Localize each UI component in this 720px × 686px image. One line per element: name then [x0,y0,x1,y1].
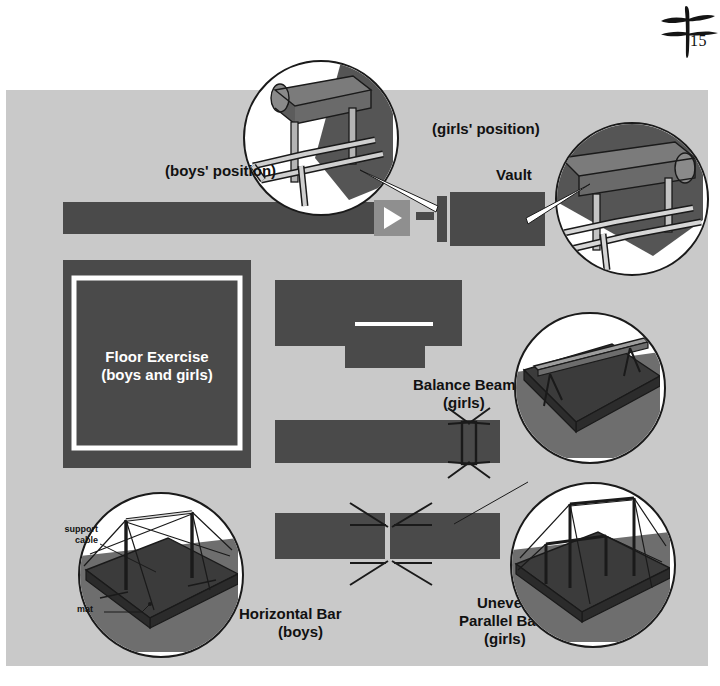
boys-position-vault-inset [243,60,399,216]
label-floor-exercise: Floor Exercise [63,348,251,366]
page-number: 15 [690,32,707,50]
balance-beam-mat-bottom [345,308,425,368]
label-uneven-bars-sub: (girls) [484,630,526,648]
gymnastics-apparatus-diagram-page: 15 [0,0,720,686]
balance-beam-line [355,322,433,326]
balance-beam-mat-top [345,280,425,308]
vault-connector [416,212,434,220]
label-floor-exercise-sub: (boys and girls) [63,366,251,384]
label-vault: Vault [496,166,532,184]
label-mat: mat [77,604,93,615]
girls-position-vault-inset [555,122,709,276]
horizontal-bar-inset [78,492,244,658]
label-horizontal-bar: Horizontal Bar [239,605,342,623]
label-boys-position: (boys' position) [165,162,276,180]
uneven-bars-landing-mat-left [275,513,385,559]
brush-stroke-ornament-icon [658,4,720,60]
label-horizontal-bar-sub: (boys) [278,623,323,641]
uneven-bars-landing-mat-right [390,513,500,559]
horizontal-bar-landing-mat [275,420,500,463]
vault-table [437,196,447,242]
label-girls-position: (girls' position) [432,120,540,138]
page-ornament: 15 [658,4,720,60]
vault-springboard [374,200,410,236]
vault-landing-mat [450,192,545,246]
balance-beam-inset [514,312,666,464]
uneven-parallel-bars-inset [510,482,676,648]
label-support-cable: support cable [40,524,98,545]
label-balance-beam-sub: (girls) [443,394,485,412]
label-balance-beam: Balance Beam [413,376,516,394]
